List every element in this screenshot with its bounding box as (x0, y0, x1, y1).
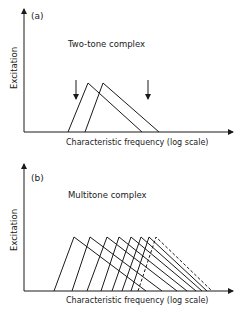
panel-a: (a) Two-tone complex Excitation Characte… (9, 9, 233, 147)
excitation-patterns (54, 237, 212, 291)
x-axis-label: Characteristic frequency (log scale) (66, 138, 208, 147)
y-axis-label: Excitation (9, 209, 19, 251)
panel-title: Two-tone complex (67, 39, 145, 49)
panel-label: (a) (31, 11, 44, 21)
x-axis-label: Characteristic frequency (log scale) (66, 296, 208, 305)
excitation-pattern (101, 237, 187, 291)
tone-arrows (76, 80, 148, 99)
excitation-pattern (138, 237, 212, 291)
panel-title: Multitone complex (68, 190, 147, 200)
figure: (a) Two-tone complex Excitation Characte… (0, 0, 246, 317)
excitation-patterns (68, 83, 159, 132)
y-axis-label: Excitation (9, 47, 19, 89)
panel-label: (b) (31, 173, 44, 183)
panel-b: (b) Multitone complex Excitation Charact… (9, 164, 233, 305)
